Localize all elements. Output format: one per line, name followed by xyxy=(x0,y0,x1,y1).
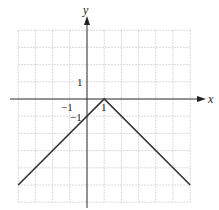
grid xyxy=(18,30,190,202)
y-tick-neg1: −1 xyxy=(70,111,82,123)
y-axis-label: y xyxy=(82,3,89,17)
x-axis-label: x xyxy=(207,92,214,106)
y-axis-arrow-icon xyxy=(84,16,90,25)
y-tick-1: 1 xyxy=(77,76,83,88)
graph: x y 1 −1 1 −1 xyxy=(0,0,219,210)
x-tick-1: 1 xyxy=(101,101,107,113)
axes xyxy=(10,16,206,208)
x-axis-arrow-icon xyxy=(197,96,206,102)
